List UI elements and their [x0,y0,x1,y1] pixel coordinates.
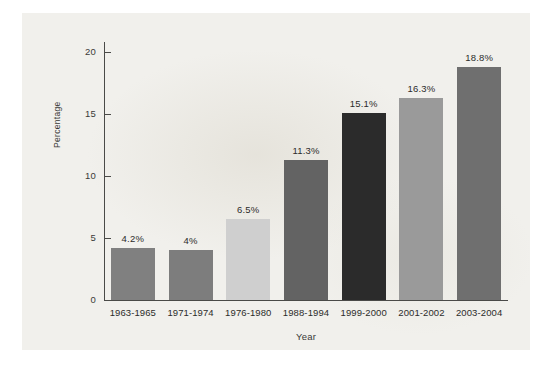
y-axis-tick-label: 20 [70,46,96,57]
y-axis-tick-label: 10 [70,170,96,181]
y-axis-tick [104,114,111,115]
y-axis-tick [104,52,111,53]
bar-value-label: 4% [151,235,231,246]
bar-value-label: 11.3% [266,145,346,156]
y-axis-line [104,42,105,301]
x-axis-title: Year [104,331,508,342]
bar-value-label: 18.8% [439,52,519,63]
y-axis-tick-label: 15 [70,108,96,119]
bar-value-label: 16.3% [381,83,461,94]
y-axis-title: Percentage [52,102,62,148]
x-axis-category-label: 2003-2004 [439,307,519,318]
bar[interactable] [399,98,443,300]
bar[interactable] [284,160,328,300]
bar-value-label: 15.1% [324,98,404,109]
bar[interactable] [169,250,213,300]
y-axis-tick [104,300,111,301]
bar[interactable] [457,67,501,300]
bar[interactable] [226,219,270,300]
bar[interactable] [111,248,155,300]
x-axis-line [104,300,508,301]
bar[interactable] [342,113,386,300]
y-axis-tick-label: 0 [70,294,96,305]
bar-chart: 05101520 Percentage Year 4.2%1963-19654%… [0,0,554,372]
figure: 05101520 Percentage Year 4.2%1963-19654%… [0,0,554,372]
y-axis-tick [104,176,111,177]
bar-value-label: 6.5% [208,204,288,215]
